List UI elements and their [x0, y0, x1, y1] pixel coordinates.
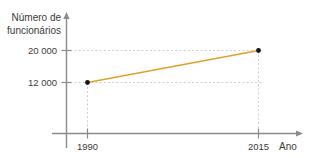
- y-axis-title-line1: Número de: [12, 12, 62, 23]
- chart-canvas: Número de funcionários 20 000 12 000 199…: [0, 0, 314, 158]
- x-axis-title: Ano: [279, 141, 297, 152]
- y-tick-label-12000: 12 000: [28, 77, 57, 88]
- employee-count-line-chart: Número de funcionários 20 000 12 000 199…: [0, 0, 314, 158]
- x-tick-label-2015: 2015: [248, 141, 269, 152]
- y-axis-arrow-icon: [63, 12, 69, 19]
- data-point-2015: [256, 48, 261, 53]
- x-axis-arrow-icon: [296, 130, 303, 136]
- y-axis-title-line2: funcionários: [7, 25, 61, 36]
- series-line-employees: [88, 51, 259, 83]
- data-point-1990: [85, 80, 90, 85]
- x-tick-label-1990: 1990: [77, 141, 98, 152]
- y-tick-label-20000: 20 000: [28, 45, 57, 56]
